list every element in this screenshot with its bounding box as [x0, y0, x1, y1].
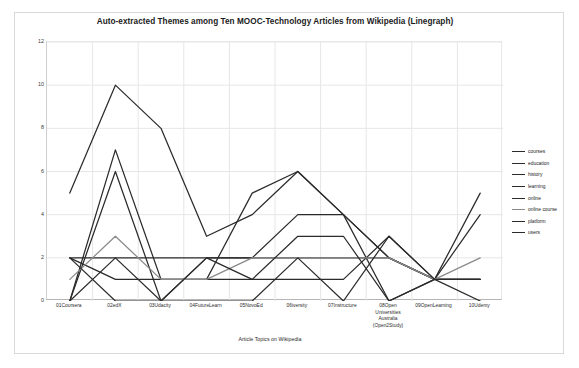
legend-item-online-course[interactable]: online course: [512, 204, 574, 216]
legend-swatch-icon: [512, 174, 525, 175]
x-tick-line: (Open2Study): [356, 323, 420, 330]
legend-item-label: online: [528, 196, 541, 201]
legend-item-label: users: [528, 230, 540, 235]
x-tick-line: 10Udemy: [447, 303, 511, 310]
legend-item-users[interactable]: users: [512, 227, 574, 239]
legend-swatch-icon: [512, 221, 525, 222]
legend-swatch-icon: [512, 151, 525, 152]
legend-swatch-icon: [512, 163, 525, 164]
legend-swatch-icon: [512, 198, 525, 199]
x-tick-line: Australia: [356, 316, 420, 323]
legend-swatch-icon: [512, 186, 525, 187]
y-tick-label: 2: [22, 254, 44, 260]
legend-item-label: education: [528, 161, 549, 166]
legend-item-label: courses: [528, 149, 545, 154]
x-axis-title: Article Topics on Wikipedia: [140, 336, 400, 342]
plot-area: [46, 41, 502, 300]
y-tick-label: 4: [22, 211, 44, 217]
legend-swatch-icon: [512, 232, 525, 233]
legend-item-history[interactable]: history: [512, 169, 574, 181]
legend-item-label: history: [528, 172, 542, 177]
legend-item-label: learning: [528, 184, 545, 189]
y-tick-label: 12: [22, 38, 44, 44]
legend-item-label: online course: [528, 207, 557, 212]
chart-page: Auto-extracted Themes among Ten MOOC-Tec…: [0, 0, 579, 368]
legend-item-label: platform: [528, 219, 546, 224]
y-tick-label: 8: [22, 124, 44, 130]
y-axis-ticks: 024681012: [22, 36, 44, 304]
legend-swatch-icon: [512, 209, 525, 210]
x-tick-line: Universities: [356, 310, 420, 317]
y-tick-label: 10: [22, 81, 44, 87]
legend-item-education[interactable]: education: [512, 158, 574, 170]
x-tick-label: 10Udemy: [447, 303, 511, 310]
legend-item-courses[interactable]: courses: [512, 146, 574, 158]
legend-item-online[interactable]: online: [512, 192, 574, 204]
legend-item-platform[interactable]: platform: [512, 216, 574, 228]
chart-title: Auto-extracted Themes among Ten MOOC-Tec…: [40, 17, 510, 26]
chart-legend: courseseducationhistorylearningonlineonl…: [512, 146, 574, 239]
line-chart-svg: [47, 42, 503, 301]
legend-item-learning[interactable]: learning: [512, 181, 574, 193]
y-tick-label: 6: [22, 168, 44, 174]
